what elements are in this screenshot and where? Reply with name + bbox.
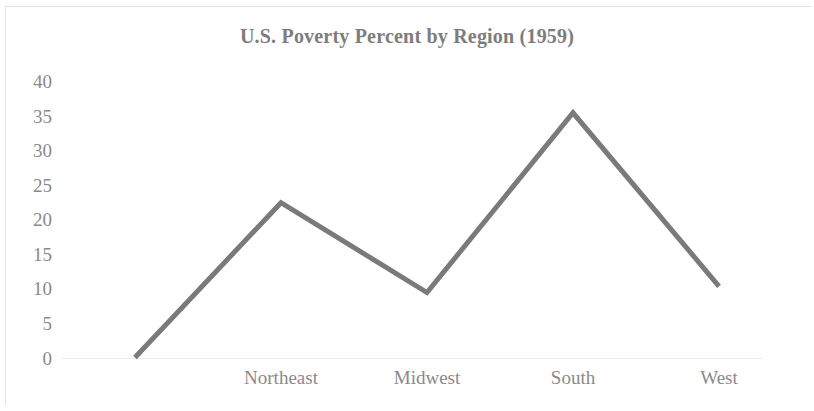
y-axis-tick-labels: 4035302520151050 bbox=[0, 72, 52, 359]
y-tick-label: 0 bbox=[0, 348, 52, 367]
chart-figure: U.S. Poverty Percent by Region (1959) 40… bbox=[0, 0, 814, 411]
chart-title: U.S. Poverty Percent by Region (1959) bbox=[0, 25, 814, 48]
x-tick-label: Northeast bbox=[244, 368, 318, 387]
y-tick-label: 15 bbox=[0, 244, 52, 263]
line-series-svg bbox=[0, 0, 814, 411]
figure-top-border bbox=[5, 6, 811, 7]
poverty-percent-line bbox=[135, 113, 719, 358]
y-tick-label: 35 bbox=[0, 106, 52, 125]
x-tick-label: Midwest bbox=[394, 368, 461, 387]
y-tick-label: 10 bbox=[0, 279, 52, 298]
x-axis-tick-labels: NortheastMidwestSouthWest bbox=[0, 368, 814, 398]
y-tick-label: 30 bbox=[0, 141, 52, 160]
x-tick-label: South bbox=[551, 368, 595, 387]
y-tick-label: 40 bbox=[0, 72, 52, 91]
y-tick-label: 5 bbox=[0, 313, 52, 332]
x-tick-label: West bbox=[700, 368, 738, 387]
y-tick-label: 25 bbox=[0, 175, 52, 194]
x-axis-baseline bbox=[62, 358, 762, 359]
y-tick-label: 20 bbox=[0, 210, 52, 229]
